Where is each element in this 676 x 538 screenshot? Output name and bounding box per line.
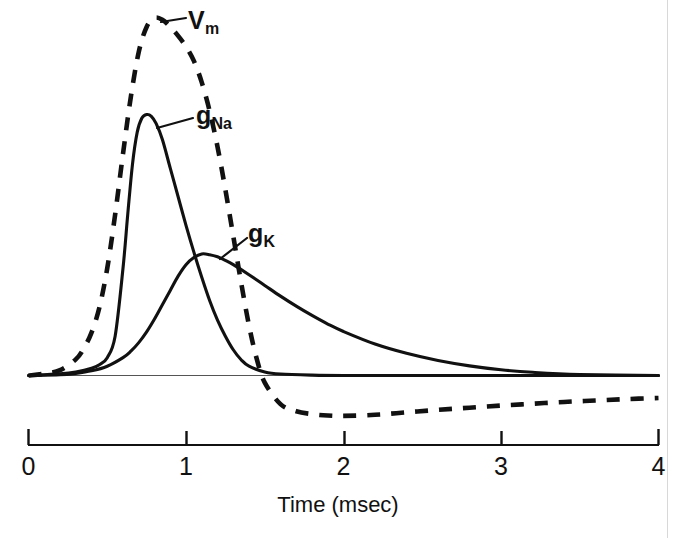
x-axis-tick-label-4: 4 [652, 452, 666, 481]
x-axis-tick-label-1: 1 [179, 452, 193, 481]
curve-label-gna-subscript: Na [211, 115, 231, 132]
x-axis-tick-label-3: 3 [494, 452, 508, 481]
leader-line-gna [157, 118, 193, 128]
figure-container: Vm gNa gK 01234 Time (msec) [0, 0, 676, 538]
x-axis [28, 429, 659, 445]
x-axis-tick-label-2: 2 [337, 452, 351, 481]
curve-label-gna: gNa [196, 103, 232, 128]
curve-label-gk-base: g [248, 219, 263, 247]
curve-label-gk-subscript: K [263, 233, 275, 250]
curve-label-gna-base: g [196, 101, 211, 129]
curve-label-vm: Vm [188, 8, 219, 33]
curve-label-vm-subscript: m [205, 20, 219, 37]
curve-label-gk: gK [248, 221, 275, 246]
x-axis-tick-label-0: 0 [22, 452, 36, 481]
x-axis-title: Time (msec) [0, 494, 676, 516]
curve-label-vm-base: V [188, 6, 205, 34]
figure-right-border [667, 0, 668, 538]
